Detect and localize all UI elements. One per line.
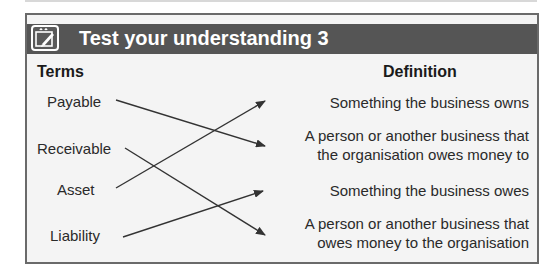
- activity-header: Test your understanding 3: [27, 24, 537, 54]
- definition-text: Something the business owns: [330, 93, 529, 112]
- term-asset: Asset: [57, 181, 95, 198]
- term-payable: Payable: [47, 93, 101, 110]
- definition-text: A person or another business that: [305, 214, 529, 233]
- definition-owes: Something the business owes: [330, 181, 529, 200]
- activity-title: Test your understanding 3: [79, 27, 329, 50]
- definition-text: A person or another business that: [305, 126, 529, 145]
- definition-owed-to: A person or another business that the or…: [305, 126, 529, 164]
- term-liability: Liability: [50, 227, 100, 244]
- activity-panel: Test your understanding 3 Terms Definiti…: [25, 13, 539, 264]
- definition-owns: Something the business owns: [330, 93, 529, 112]
- definition-text: owes money to the organisation: [305, 233, 529, 252]
- definition-text: Something the business owes: [330, 181, 529, 200]
- terms-column-header: Terms: [37, 63, 84, 81]
- notepad-pencil-icon: [31, 25, 59, 51]
- definition-owes-money: A person or another business that owes m…: [305, 214, 529, 252]
- definition-text: the organisation owes money to: [305, 145, 529, 164]
- top-rule: [25, 0, 537, 2]
- term-receivable: Receivable: [37, 140, 111, 157]
- definition-column-header: Definition: [383, 63, 457, 81]
